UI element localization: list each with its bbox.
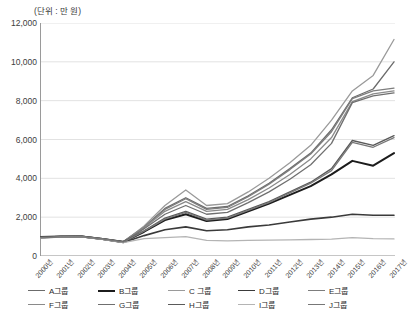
legend-item-D그룹[interactable]: D그룹 xyxy=(238,285,308,296)
unit-label: (단위 : 만 원) xyxy=(34,4,81,16)
legend-item-label: B그룹 xyxy=(119,285,138,296)
x-axis-tick-label: 2006년 xyxy=(157,257,179,280)
series-line-0 xyxy=(40,62,394,242)
series-line-1 xyxy=(40,153,394,242)
x-axis-tick-label: 2003년 xyxy=(95,257,117,280)
legend-item-label: C 그룹 xyxy=(189,285,211,296)
x-axis-tick-label: 2007년 xyxy=(178,257,200,280)
legend-line-swatch xyxy=(168,304,185,305)
legend-item-G그룹[interactable]: G그룹 xyxy=(98,299,168,310)
y-axis-tick-label: 2,000 xyxy=(16,212,37,222)
series-line-9 xyxy=(40,138,394,243)
legend-item-E그룹[interactable]: E그룹 xyxy=(308,285,378,296)
y-axis-tick-label: 8,000 xyxy=(16,96,37,106)
x-axis-tick-label: 2014년 xyxy=(324,257,346,280)
x-axis-tick-label: 2013년 xyxy=(303,257,325,280)
x-axis-tick-label: 2017년 xyxy=(387,257,408,280)
legend-item-label: A그룹 xyxy=(49,285,68,296)
x-axis-tick-label: 2009년 xyxy=(220,257,242,280)
series-line-2 xyxy=(40,40,394,243)
x-axis-tick-label: 2010년 xyxy=(241,257,263,280)
legend-item-label: D그룹 xyxy=(259,285,279,296)
legend-item-C그룹[interactable]: C 그룹 xyxy=(168,285,238,296)
x-axis-tick-label: 2012년 xyxy=(282,257,304,280)
legend-item-label: J그룹 xyxy=(329,299,347,310)
legend-line-swatch xyxy=(308,304,325,305)
y-axis-tick-label: 4,000 xyxy=(16,173,37,183)
y-axis-tick-label: 0 xyxy=(32,251,37,261)
legend-item-label: I그룹 xyxy=(259,299,275,310)
legend-item-H그룹[interactable]: H그룹 xyxy=(168,299,238,310)
y-axis-tick-label: 10,000 xyxy=(11,57,37,67)
chart-legend: A그룹B그룹C 그룹D그룹E그룹F그룹G그룹H그룹I그룹J그룹 xyxy=(28,285,378,313)
legend-line-swatch xyxy=(238,304,255,305)
x-axis-tick-label: 2016년 xyxy=(366,257,388,280)
legend-item-B그룹[interactable]: B그룹 xyxy=(98,285,168,296)
legend-line-swatch xyxy=(238,290,255,291)
y-axis-tick-label: 6,000 xyxy=(16,135,37,145)
legend-line-swatch xyxy=(168,290,185,291)
legend-item-J그룹[interactable]: J그룹 xyxy=(308,299,378,310)
legend-item-label: E그룹 xyxy=(329,285,348,296)
x-axis-tick-label: 2004년 xyxy=(116,257,138,280)
line-chart-svg xyxy=(40,23,395,256)
x-axis-tick-label: 2008년 xyxy=(199,257,221,280)
x-axis-tick-label: 2005년 xyxy=(137,257,159,280)
x-axis-tick-label: 2011년 xyxy=(262,257,284,279)
legend-line-swatch xyxy=(98,304,115,305)
legend-item-I그룹[interactable]: I그룹 xyxy=(238,299,308,310)
x-axis-tick-label: 2015년 xyxy=(345,257,367,280)
legend-item-label: G그룹 xyxy=(119,299,139,310)
legend-item-label: F그룹 xyxy=(49,299,68,310)
legend-line-swatch xyxy=(308,290,325,291)
plot-area xyxy=(40,23,395,256)
legend-item-A그룹[interactable]: A그룹 xyxy=(28,285,98,296)
legend-line-swatch xyxy=(98,290,115,292)
legend-item-label: H그룹 xyxy=(189,299,209,310)
series-line-7 xyxy=(40,136,394,242)
legend-item-F그룹[interactable]: F그룹 xyxy=(28,299,98,310)
y-axis-tick-label: 12,000 xyxy=(11,18,37,28)
x-axis-tick-label: 2001년 xyxy=(53,257,75,280)
legend-line-swatch xyxy=(28,290,45,291)
x-axis-tick-label: 2002년 xyxy=(74,257,96,280)
legend-line-swatch xyxy=(28,304,45,305)
y-axis: 12,00010,0008,0006,0004,0002,0000 xyxy=(0,23,37,256)
x-axis: 2000년2001년2002년2003년2004년2005년2006년2007년… xyxy=(40,257,395,283)
